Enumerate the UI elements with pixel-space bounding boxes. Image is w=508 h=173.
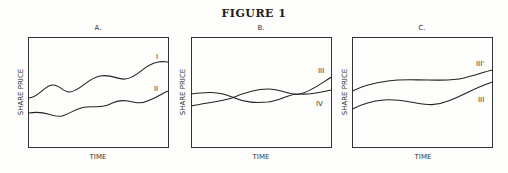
panel-a-frame	[29, 38, 169, 148]
panel-a-ylabel: SHARE PRICE	[17, 69, 25, 115]
panel-c-ylabel: SHARE PRICE	[341, 69, 349, 115]
curve-ii	[29, 91, 169, 116]
panel-b-xlabel: TIME	[252, 153, 270, 161]
curve-iii	[192, 77, 332, 106]
curve-i	[29, 62, 169, 98]
panel-a-xlabel: TIME	[89, 153, 107, 161]
panel-c: III' III TIME SHARE PRICE	[341, 38, 493, 162]
curve-iii-prime	[353, 70, 493, 91]
label-iv: IV	[316, 100, 323, 108]
label-iii-c: III	[478, 96, 484, 104]
panel-a: I II TIME SHARE PRICE	[17, 38, 169, 162]
label-ii: II	[154, 85, 158, 93]
panel-b-ylabel: SHARE PRICE	[179, 69, 187, 115]
figure-canvas: I II TIME SHARE PRICE III IV TIME SHARE …	[0, 0, 508, 173]
curve-iii-c	[353, 82, 493, 109]
label-iii-prime: III'	[476, 60, 484, 68]
panel-c-frame	[353, 38, 493, 148]
panel-b: III IV TIME SHARE PRICE	[179, 38, 332, 162]
panel-c-xlabel: TIME	[414, 153, 432, 161]
curve-iv	[192, 90, 332, 102]
label-iii: III	[318, 67, 324, 75]
label-i: I	[156, 53, 158, 61]
